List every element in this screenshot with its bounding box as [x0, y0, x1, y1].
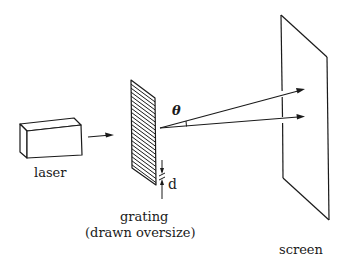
grating	[120, 76, 170, 197]
grating-note-label: (drawn oversize)	[85, 225, 196, 240]
screen-label: screen	[279, 242, 323, 257]
laser-box	[20, 118, 82, 158]
undeflected-ray	[160, 114, 305, 128]
angle-arc	[186, 121, 187, 127]
laser-label: laser	[34, 165, 67, 180]
spacing-d-label: d	[168, 176, 177, 192]
incident-beam-arrow	[88, 133, 114, 138]
grating-label: grating	[120, 209, 168, 224]
angle-theta-label: θ	[172, 103, 181, 118]
spacing-d-indicator	[159, 160, 165, 199]
